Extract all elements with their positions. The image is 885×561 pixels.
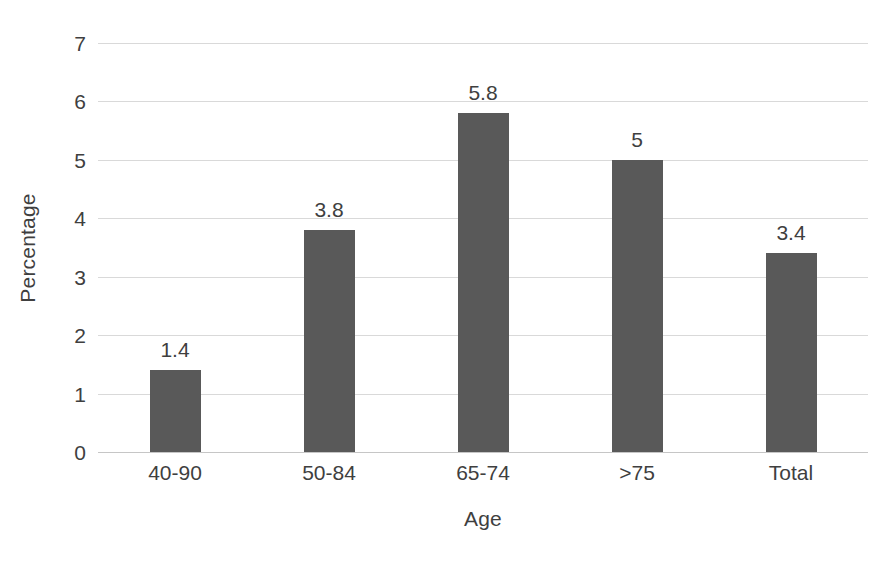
bar-value-label: 3.4 xyxy=(721,222,861,243)
y-tick-label: 5 xyxy=(40,149,86,170)
bar-value-label: 5.8 xyxy=(413,82,553,103)
bar[interactable] xyxy=(612,160,663,452)
x-tick-label: 50-84 xyxy=(249,462,409,483)
bar-value-label: 1.4 xyxy=(105,339,245,360)
bar-chart: Percentage 01234567 1.43.85.853.4 40-905… xyxy=(0,0,885,561)
bar-group: 5.8 xyxy=(458,43,509,452)
y-tick-label: 0 xyxy=(40,442,86,463)
x-tick-label: Total xyxy=(711,462,871,483)
x-axis-title: Age xyxy=(98,507,868,531)
gridline xyxy=(98,452,868,453)
bar-group: 3.4 xyxy=(766,43,817,452)
y-tick-label: 2 xyxy=(40,325,86,346)
y-tick-label: 3 xyxy=(40,266,86,287)
x-tick-label: >75 xyxy=(557,462,717,483)
bar-value-label: 3.8 xyxy=(259,199,399,220)
y-tick-label: 7 xyxy=(40,33,86,54)
bar-group: 5 xyxy=(612,43,663,452)
plot-area: 1.43.85.853.4 xyxy=(98,43,868,452)
bar-group: 3.8 xyxy=(304,43,355,452)
x-tick-label: 40-90 xyxy=(95,462,255,483)
bar[interactable] xyxy=(150,370,201,452)
y-tick-label: 1 xyxy=(40,383,86,404)
x-tick-label: 65-74 xyxy=(403,462,563,483)
y-tick-label: 4 xyxy=(40,208,86,229)
y-tick-label: 6 xyxy=(40,91,86,112)
x-axis-tick-labels: 40-9050-8465-74>75Total xyxy=(98,462,868,496)
bar[interactable] xyxy=(304,230,355,452)
bar-group: 1.4 xyxy=(150,43,201,452)
bar[interactable] xyxy=(766,253,817,452)
bar[interactable] xyxy=(458,113,509,452)
y-axis-tick-labels: 01234567 xyxy=(34,43,86,452)
bar-value-label: 5 xyxy=(567,129,707,150)
